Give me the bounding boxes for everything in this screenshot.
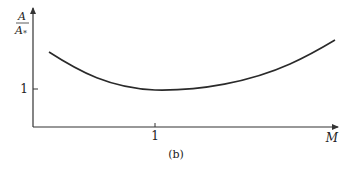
- area-ratio-chart: 1 1 A A* M (b): [0, 0, 355, 170]
- area-ratio-curve: [49, 40, 335, 90]
- y-tick-label: 1: [20, 82, 28, 96]
- y-axis-label-numerator: A: [17, 10, 26, 23]
- x-tick-label: 1: [151, 129, 159, 143]
- x-axis-label: M: [325, 131, 339, 145]
- figure-caption: (b): [168, 148, 184, 161]
- y-axis-label-denominator: A*: [14, 24, 27, 38]
